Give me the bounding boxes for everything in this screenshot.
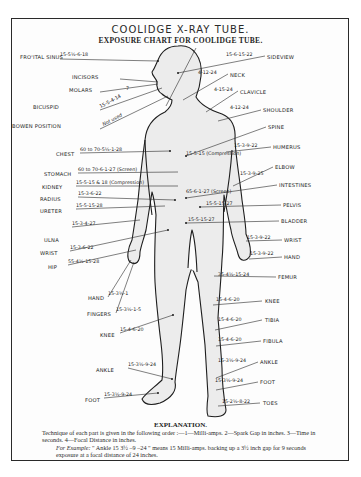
right-body-part-value: 15-3-9-22 [247,235,271,240]
explanation-title: EXPLANATION. [0,421,361,429]
left-body-part-label: URETER [40,208,62,214]
right-body-part-label: TOES [263,400,278,406]
left-body-part-label: WRIST [40,250,58,256]
left-body-part-label: INCISORS [72,74,98,80]
left-body-part-value: 15-5½-6-18 [60,52,88,57]
right-body-part-value: 15-3½-9-24 [218,358,246,363]
right-body-part-label: ELBOW [275,164,295,170]
left-body-part-label: FOOT [85,397,100,403]
right-body-part-label: SHOULDER [263,107,293,113]
left-body-part-value: 15-3½-1 [108,291,128,296]
right-body-part-value: 15-6-15-22 [226,52,253,57]
right-body-part-value: 15-3-9-25 [240,171,264,176]
left-body-part-label: FINGERS [87,311,111,317]
left-body-part-label: KIDNEY [42,184,62,190]
left-body-part-label: STOMACH [44,171,71,177]
right-body-part-value: 15-4-6-20 [218,337,242,342]
right-body-part-value: 4-12-24 [230,105,249,110]
example-label: For Example: [56,444,91,451]
right-body-part-label: INTESTINES [279,182,311,188]
left-body-part-value: 60 to 70-5¼-1-28 [80,147,122,152]
left-body-part-label: ULNA [44,237,59,243]
right-body-part-label: SPINE [268,124,284,130]
right-body-part-value: 65-6-1-27 (Screen) [186,189,231,194]
explanation-line: Technique of each part is given in the f… [42,429,315,443]
left-body-part-value: 15-3-4-27 [72,221,96,226]
left-body-part-label: KNEE [100,332,115,338]
right-body-part-value: 15-3-9-22 [250,251,274,256]
right-body-part-label: PELVIS [283,202,301,208]
right-body-part-label: KNEE [265,298,280,304]
left-body-part-value: 15-3-6-22 [78,191,102,196]
example-text: " Ankle 15 3½ –9 –24 " means 15 Milli-am… [56,444,306,458]
right-body-part-label: HUMERUS [273,144,301,150]
left-body-part-value: 15-3-6-22 [70,245,94,250]
right-body-part-label: FEMUR [278,274,297,280]
right-body-part-label: CLAVICLE [240,89,266,95]
left-body-part-value: 55-4½-15-28 [68,259,99,264]
right-body-part-value: 15-4-6-20 [218,317,242,322]
left-body-part-label: HIP [48,264,57,270]
right-body-part-label: BLADDER [281,218,307,224]
left-body-part-value: 15-4-6-20 [120,327,144,332]
explanation-example: For Example: " Ankle 15 3½ –9 –24 " mean… [42,444,317,459]
left-body-part-label: FRO'ITAL SINUS [20,54,63,60]
left-body-part-label: CHEST [56,151,74,157]
left-body-part-label: ANKLE [96,367,114,373]
right-body-part-value: 15-3½-9-24 [215,378,243,383]
left-body-part-label: MOLARS [69,87,92,93]
left-body-part-label: RADIUS [40,196,61,202]
right-body-part-value: 15-3-9-22 [234,143,258,148]
left-body-part-label: BOWEN POSITION [12,123,61,129]
right-body-part-label: FOOT [260,379,275,385]
left-body-part-value: 15-3½-1-5 [116,307,141,312]
right-body-part-label: WRIST [284,237,302,243]
left-body-part-value: 15-5-15 & 18 (Compression) [76,180,144,185]
right-body-part-value: 15-4-6-20 [216,297,240,302]
right-body-part-value: 15-5-15 (Compression) [186,151,241,156]
molars-mark: 7 [126,86,129,91]
right-body-part-value: 15-5-15-27 [188,217,215,222]
right-body-part-value: 15-5-15-27 [206,201,233,206]
right-body-part-label: SIDEVIEW [267,54,294,60]
left-body-part-value: 60 to 70-6-1-27 (Screen) [78,167,137,172]
right-body-part-value: 4-12-24 [198,70,217,75]
right-body-part-label: HAND [284,254,300,260]
right-body-part-label: TIBIA [265,317,279,323]
left-body-part-value: 15-3½-9-24 [104,392,132,397]
explanation-text: Technique of each part is given in the f… [42,429,317,458]
right-body-part-label: NECK [230,72,245,78]
right-body-part-value: 4-15-24 [214,87,233,92]
right-body-part-value: 15-2½-8-22 [222,399,250,404]
right-body-part-value: 35-4½-15-24 [218,272,249,277]
left-body-part-value: 15-3½-9-24 [128,362,156,367]
right-body-part-label: FIBULA [263,338,283,344]
left-body-part-value: 15-5-15-28 [76,203,103,208]
left-body-part-label: BICUSPID [33,104,59,110]
left-body-part-label: HAND [88,295,104,301]
right-body-part-label: ANKLE [260,359,278,365]
